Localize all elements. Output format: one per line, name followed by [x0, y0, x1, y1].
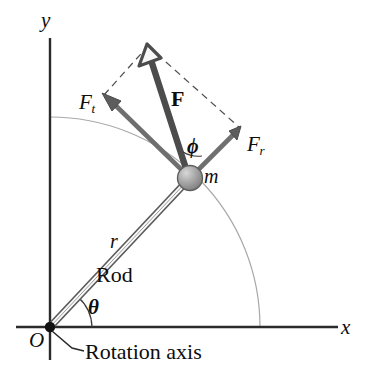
origin-label: O	[29, 330, 44, 351]
force-Ft-symbol: F	[79, 90, 92, 114]
x-axis-label: x	[341, 317, 350, 338]
force-vector-F	[139, 44, 189, 178]
rod	[50, 178, 190, 327]
rod-label: Rod	[96, 264, 133, 286]
radius-label: r	[110, 231, 118, 251]
theta-angle-label: θ	[88, 297, 99, 318]
origin-dot	[45, 322, 55, 332]
force-Fr-label: Fr	[247, 134, 265, 155]
rotation-axis-label: Rotation axis	[85, 341, 202, 363]
y-axis-label: y	[41, 10, 50, 31]
force-F-label: F	[171, 88, 184, 110]
force-Fr-symbol: F	[247, 132, 260, 156]
figure-canvas	[0, 0, 368, 370]
particle-mass-ball	[178, 166, 203, 191]
physics-diagram: y x O m r Rod θ ϕ F Ft Fr Rotation axis	[0, 0, 368, 370]
mass-label: m	[204, 166, 218, 186]
phi-angle-label: ϕ	[187, 136, 199, 156]
force-Ft-label: Ft	[79, 92, 95, 113]
force-Ft-subscript: t	[92, 101, 96, 116]
force-Fr-subscript: r	[260, 143, 265, 158]
rotation-axis-leader-line	[52, 331, 84, 351]
